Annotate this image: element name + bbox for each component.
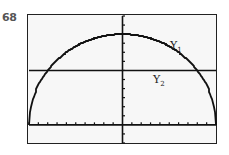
graph-plot — [28, 15, 218, 145]
calculator-screen: Y1 Y2 — [27, 14, 217, 144]
problem-number: 68 — [2, 11, 16, 24]
y1-label: Y1 — [170, 39, 182, 54]
y2-label: Y2 — [153, 73, 165, 88]
